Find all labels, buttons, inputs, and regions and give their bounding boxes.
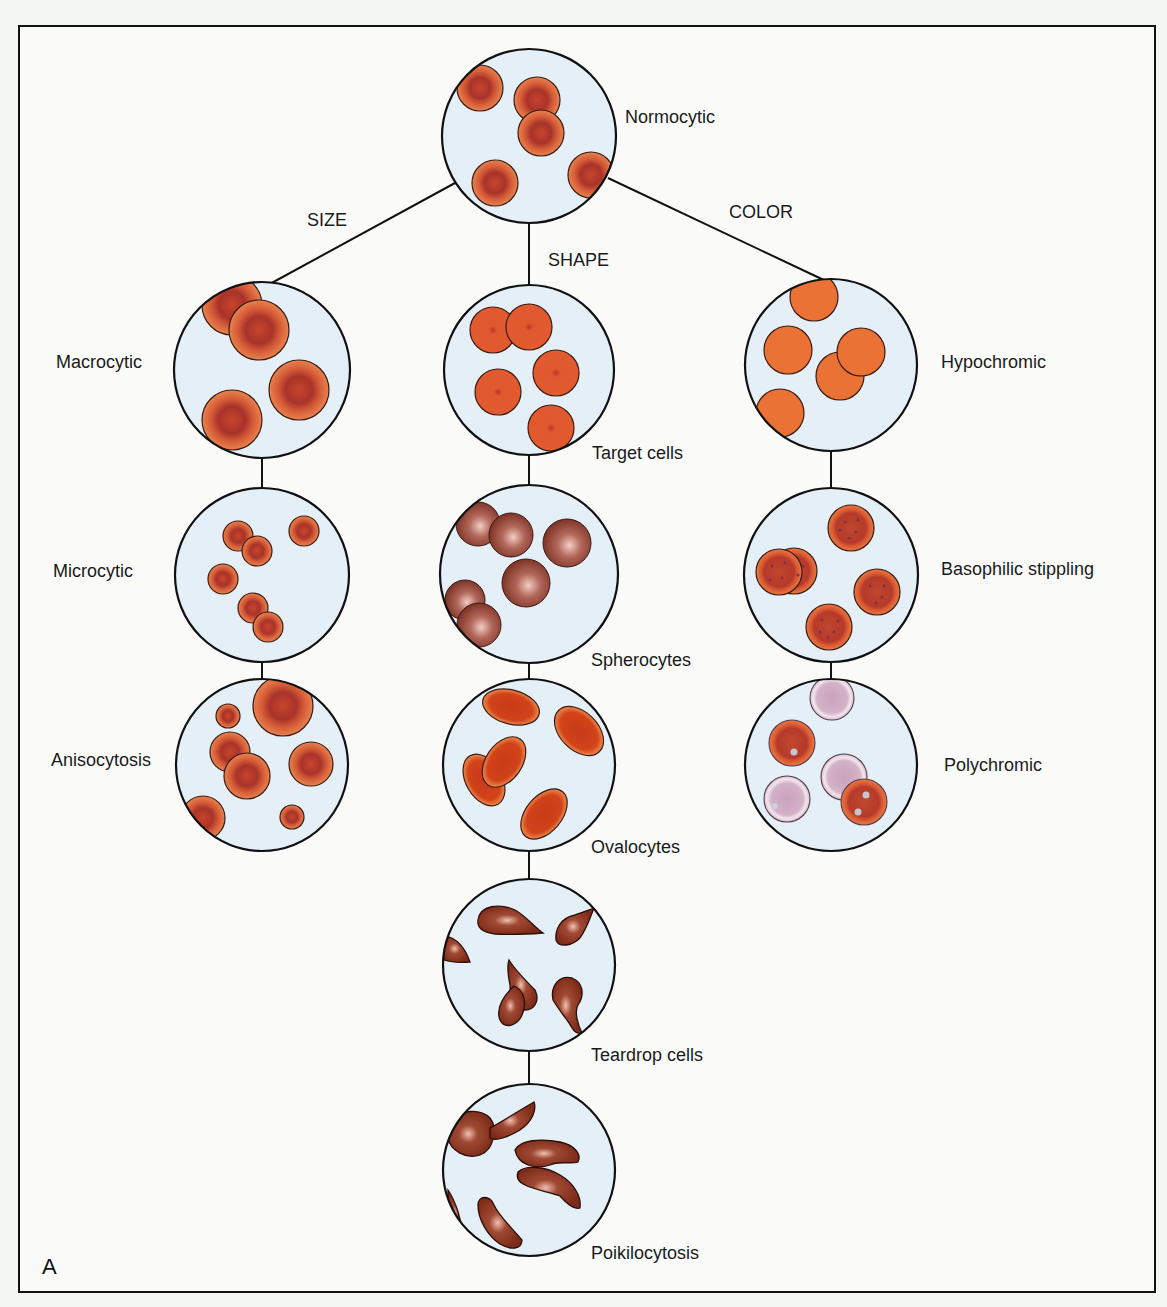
- label-spherocytes: Spherocytes: [591, 650, 691, 671]
- panel-letter: A: [42, 1254, 57, 1280]
- label-ovalocytes: Ovalocytes: [591, 837, 680, 858]
- label-anisocytosis: Anisocytosis: [51, 750, 151, 771]
- label-color-branch: COLOR: [729, 202, 793, 223]
- field-poikilocytosis: [443, 1084, 615, 1256]
- label-basophilic-stippling: Basophilic stippling: [941, 559, 1094, 580]
- field-normocytic: [442, 49, 616, 223]
- field-target-cells: [444, 285, 614, 455]
- label-macrocytic: Macrocytic: [56, 352, 142, 373]
- label-microcytic: Microcytic: [53, 561, 133, 582]
- label-shape-branch: SHAPE: [548, 250, 609, 271]
- field-polychromic: [745, 676, 917, 851]
- field-microcytic: [175, 488, 349, 662]
- rbc-morphology-diagram: [0, 0, 1167, 1307]
- field-spherocytes: [440, 485, 618, 663]
- field-hypochromic: [745, 273, 917, 451]
- label-hypochromic: Hypochromic: [941, 352, 1046, 373]
- label-polychromic: Polychromic: [944, 755, 1042, 776]
- field-macrocytic: [174, 275, 350, 458]
- label-poikilocytosis: Poikilocytosis: [591, 1243, 699, 1264]
- label-size-branch: SIZE: [307, 210, 347, 231]
- field-teardrop-cells: [442, 879, 615, 1051]
- label-teardrop-cells: Teardrop cells: [591, 1045, 703, 1066]
- field-anisocytosis: [176, 676, 348, 851]
- label-target-cells: Target cells: [592, 443, 683, 464]
- field-basophilic-stippling: [744, 488, 918, 662]
- field-ovalocytes: [443, 679, 615, 851]
- label-normocytic: Normocytic: [625, 107, 715, 128]
